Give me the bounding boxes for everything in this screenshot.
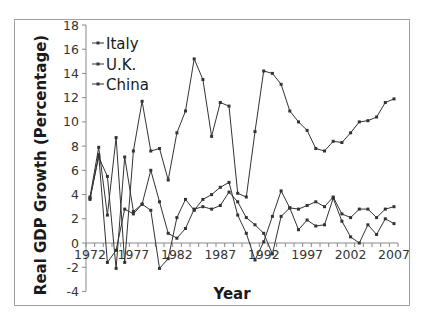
legend-label-italy: Italy bbox=[106, 35, 139, 53]
data-point bbox=[158, 267, 161, 270]
y-tick-label: 16 bbox=[63, 42, 79, 57]
data-point bbox=[236, 200, 239, 203]
data-point bbox=[184, 227, 187, 230]
data-point bbox=[236, 214, 239, 217]
data-point bbox=[340, 212, 343, 215]
data-point bbox=[123, 156, 126, 159]
data-point bbox=[175, 131, 178, 134]
data-point bbox=[262, 240, 265, 243]
data-point bbox=[288, 206, 291, 209]
x-tick-label: 2007 bbox=[378, 247, 410, 262]
data-point bbox=[340, 220, 343, 223]
y-tick-label: 12 bbox=[63, 90, 79, 105]
data-point bbox=[201, 198, 204, 201]
data-point bbox=[280, 189, 283, 192]
data-point bbox=[115, 249, 118, 252]
data-point bbox=[254, 259, 257, 262]
data-point bbox=[245, 232, 248, 235]
data-point bbox=[332, 196, 335, 199]
data-point bbox=[254, 223, 257, 226]
data-point bbox=[384, 101, 387, 104]
x-tick-label: 1982 bbox=[161, 247, 193, 262]
data-point bbox=[184, 198, 187, 201]
x-tick-label: 2002 bbox=[335, 247, 367, 262]
data-point bbox=[297, 208, 300, 211]
data-point bbox=[262, 70, 265, 73]
data-point bbox=[262, 232, 265, 235]
data-point bbox=[158, 147, 161, 150]
y-tick-label: 10 bbox=[63, 114, 79, 129]
data-point bbox=[375, 216, 378, 219]
legend-marker-icon bbox=[97, 63, 100, 66]
data-point bbox=[306, 204, 309, 207]
data-point bbox=[132, 150, 135, 153]
data-point bbox=[141, 100, 144, 103]
x-axis-title: Year bbox=[212, 285, 251, 303]
data-point bbox=[366, 223, 369, 226]
data-point bbox=[106, 214, 109, 217]
x-tick-label: 1992 bbox=[248, 247, 280, 262]
data-point bbox=[106, 175, 109, 178]
data-point bbox=[141, 203, 144, 206]
data-point bbox=[323, 205, 326, 208]
legend-item-china: China bbox=[92, 76, 149, 94]
line-chart: -4-2024681012141618 19721977198219871992… bbox=[0, 0, 429, 322]
data-point bbox=[115, 267, 118, 270]
data-point bbox=[271, 215, 274, 218]
data-point bbox=[393, 222, 396, 225]
data-point bbox=[375, 233, 378, 236]
legend: Italy U.K. China bbox=[92, 35, 149, 94]
data-point bbox=[236, 192, 239, 195]
y-tick-label: 4 bbox=[71, 187, 79, 202]
data-point bbox=[158, 200, 161, 203]
data-point bbox=[149, 209, 152, 212]
data-point bbox=[245, 196, 248, 199]
y-tick-label: 6 bbox=[71, 163, 79, 178]
x-tick-label: 1987 bbox=[204, 247, 236, 262]
data-point bbox=[228, 191, 231, 194]
y-tick-label: 2 bbox=[71, 211, 79, 226]
y-axis-title: Real GDP Growth (Percentage) bbox=[32, 35, 50, 295]
data-point bbox=[201, 78, 204, 81]
data-point bbox=[228, 105, 231, 108]
data-point bbox=[167, 232, 170, 235]
data-point bbox=[167, 179, 170, 182]
data-point bbox=[323, 223, 326, 226]
x-tick-label: 1977 bbox=[118, 247, 150, 262]
data-point bbox=[288, 110, 291, 113]
legend-label-uk: U.K. bbox=[106, 56, 136, 74]
data-point bbox=[306, 129, 309, 132]
data-point bbox=[349, 216, 352, 219]
data-point bbox=[245, 216, 248, 219]
data-point bbox=[193, 209, 196, 212]
data-point bbox=[297, 228, 300, 231]
data-point bbox=[175, 237, 178, 240]
data-point bbox=[219, 204, 222, 207]
data-point bbox=[123, 208, 126, 211]
data-point bbox=[219, 101, 222, 104]
data-point bbox=[132, 212, 135, 215]
legend-item-italy: Italy bbox=[92, 35, 139, 53]
data-point bbox=[115, 136, 118, 139]
data-point bbox=[97, 146, 100, 149]
data-point bbox=[358, 242, 361, 245]
x-tick-label: 1972 bbox=[74, 247, 106, 262]
data-point bbox=[280, 215, 283, 218]
data-point bbox=[332, 140, 335, 143]
data-point bbox=[210, 193, 213, 196]
data-point bbox=[375, 116, 378, 119]
data-point bbox=[323, 150, 326, 153]
data-point bbox=[314, 200, 317, 203]
data-point bbox=[366, 208, 369, 211]
data-point bbox=[349, 235, 352, 238]
data-point bbox=[271, 72, 274, 75]
data-point bbox=[358, 208, 361, 211]
data-point bbox=[280, 83, 283, 86]
data-point bbox=[106, 261, 109, 264]
data-point bbox=[366, 119, 369, 122]
data-point bbox=[340, 141, 343, 144]
data-point bbox=[349, 131, 352, 134]
y-tick-label: 14 bbox=[63, 66, 79, 81]
data-point bbox=[201, 205, 204, 208]
data-point bbox=[384, 217, 387, 220]
